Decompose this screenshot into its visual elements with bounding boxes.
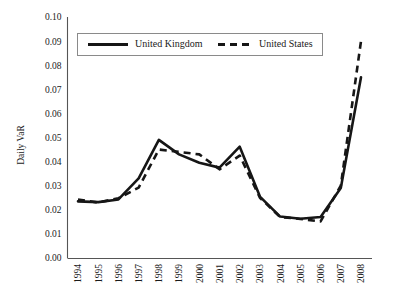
x-tick-label: 2008 <box>356 264 366 283</box>
x-tick-label: 2000 <box>195 264 205 283</box>
legend-label-united-kingdom: United Kingdom <box>135 38 203 49</box>
var-line-chart: Daily VaR 0.000.010.020.030.040.050.060.… <box>0 0 400 302</box>
x-tick-label: 2006 <box>316 264 326 283</box>
x-axis-tick-labels: 1994199519961997199819992000200120022003… <box>73 264 366 283</box>
y-tick-label: 0.10 <box>45 12 62 22</box>
x-tick-label: 2004 <box>276 264 286 283</box>
legend-label-united-states: United States <box>259 38 313 49</box>
series-line-united-kingdom <box>78 77 361 218</box>
y-tick-label: 0.06 <box>45 109 62 119</box>
chart-legend: United Kingdom United States <box>78 34 323 56</box>
y-tick-label: 0.01 <box>45 229 62 239</box>
y-tick-label: 0.08 <box>45 61 62 71</box>
x-tick-label: 1994 <box>73 264 83 283</box>
x-tick-label: 2002 <box>235 264 245 283</box>
y-axis-title: Daily VaR <box>16 125 26 165</box>
y-tick-label: 0.04 <box>45 157 62 167</box>
series-layer <box>78 41 361 221</box>
y-axis-tick-labels: 0.000.010.020.030.040.050.060.070.080.09… <box>45 12 62 263</box>
y-tick-label: 0.09 <box>45 37 62 47</box>
x-tick-label: 1996 <box>114 264 124 283</box>
y-tick-label: 0.05 <box>45 133 62 143</box>
x-tick-label: 2001 <box>215 264 225 283</box>
y-tick-label: 0.00 <box>45 253 62 263</box>
chart-canvas: Daily VaR 0.000.010.020.030.040.050.060.… <box>0 0 400 302</box>
x-tick-label: 2003 <box>255 264 265 283</box>
x-tick-label: 1999 <box>174 264 184 283</box>
y-tick-label: 0.07 <box>45 85 62 95</box>
y-axis-title-label: Daily VaR <box>16 125 26 165</box>
x-tick-label: 2007 <box>336 264 346 283</box>
x-tick-label: 1998 <box>154 264 164 283</box>
x-tick-label: 2005 <box>296 264 306 283</box>
series-line-united-states <box>78 41 361 221</box>
y-tick-label: 0.03 <box>45 181 62 191</box>
y-tick-label: 0.02 <box>45 205 62 215</box>
x-tick-label: 1995 <box>94 264 104 283</box>
x-tick-label: 1997 <box>134 264 144 283</box>
